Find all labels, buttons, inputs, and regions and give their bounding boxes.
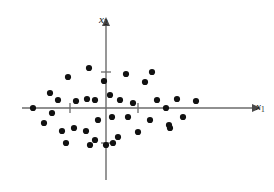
data-point <box>65 74 71 80</box>
data-point <box>107 92 113 98</box>
y-axis-label-subscript: 2 <box>104 18 108 27</box>
data-point <box>117 97 123 103</box>
data-point <box>149 69 155 75</box>
data-point <box>180 114 186 120</box>
x-axis-label: x1 <box>256 101 265 112</box>
data-point <box>167 125 173 131</box>
data-point <box>92 97 98 103</box>
data-point <box>193 98 199 104</box>
data-point <box>103 142 109 148</box>
data-point <box>59 128 65 134</box>
data-point <box>154 97 160 103</box>
data-point <box>87 142 93 148</box>
data-point <box>123 71 129 77</box>
data-point <box>142 79 148 85</box>
x-axis-label-subscript: 1 <box>261 105 265 114</box>
data-point <box>115 134 121 140</box>
data-point <box>49 110 55 116</box>
data-point <box>86 65 92 71</box>
data-point <box>125 114 131 120</box>
data-point <box>83 128 89 134</box>
data-point <box>135 129 141 135</box>
data-point <box>63 140 69 146</box>
data-point <box>110 140 116 146</box>
data-point <box>147 117 153 123</box>
data-point <box>92 137 98 143</box>
data-point <box>47 90 53 96</box>
data-point <box>130 100 136 106</box>
data-point <box>30 105 36 111</box>
data-point <box>71 125 77 131</box>
data-point <box>73 98 79 104</box>
plot-canvas <box>0 0 274 192</box>
data-point <box>84 96 90 102</box>
data-points-group <box>30 65 199 148</box>
data-point <box>174 96 180 102</box>
data-point <box>163 105 169 111</box>
data-point <box>95 117 101 123</box>
scatter-plot-figure: x1 x2 <box>0 0 274 192</box>
data-point <box>41 120 47 126</box>
y-axis-label: x2 <box>99 14 108 25</box>
data-point <box>55 97 61 103</box>
data-point <box>109 114 115 120</box>
data-point <box>101 78 107 84</box>
